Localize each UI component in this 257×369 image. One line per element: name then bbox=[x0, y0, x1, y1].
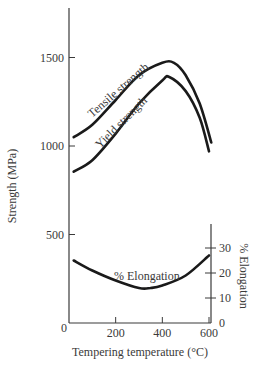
y2-axis-label: % Elongation bbox=[237, 243, 251, 309]
right-tick-label: 20 bbox=[219, 266, 231, 280]
right-tick-label: 0 bbox=[219, 316, 225, 330]
x-tick-label: 200 bbox=[107, 326, 125, 340]
left-tick-label: 500 bbox=[46, 228, 64, 242]
x-axis-label: Tempering temperature (°C) bbox=[72, 345, 208, 359]
y-axis-label: Strength (MPa) bbox=[5, 149, 19, 223]
left-y-ticks bbox=[69, 58, 75, 235]
left-tick-label: 1500 bbox=[40, 51, 64, 65]
curves bbox=[74, 61, 212, 288]
right-tick-label: 10 bbox=[219, 291, 231, 305]
x-tick-label: 600 bbox=[200, 326, 218, 340]
y-zero-label: 0 bbox=[61, 321, 67, 335]
right-tick-label: 30 bbox=[219, 241, 231, 255]
left-y-tick-labels: 50010001500 bbox=[40, 51, 64, 242]
elongation-label: % Elongation bbox=[114, 269, 180, 283]
x-ticks bbox=[116, 317, 209, 323]
x-tick-labels: 200400600 bbox=[107, 326, 218, 340]
right-y-tick-labels: 0102030 bbox=[219, 241, 231, 330]
chart: 50010001500 200400600 0 0102030 Tensile … bbox=[0, 0, 257, 369]
left-tick-label: 1000 bbox=[40, 139, 64, 153]
x-tick-label: 400 bbox=[153, 326, 171, 340]
